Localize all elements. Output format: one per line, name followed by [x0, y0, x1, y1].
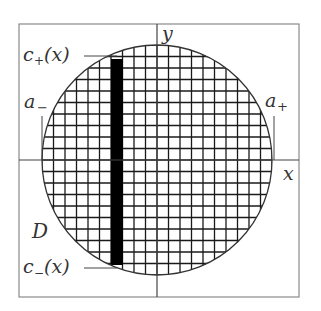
y-axis-label: y: [161, 22, 173, 44]
x-axis-label: x: [283, 162, 294, 184]
svg-text:−: −: [37, 100, 48, 115]
a-minus-label: a −: [24, 90, 48, 115]
svg-text:+: +: [277, 99, 288, 114]
c-plus-label: c + (x): [23, 43, 70, 68]
svg-text:c: c: [23, 43, 34, 65]
svg-text:+: +: [34, 54, 44, 68]
svg-text:−: −: [34, 266, 44, 280]
c-minus-label: c − (x): [23, 255, 70, 280]
svg-text:(x): (x): [44, 43, 70, 65]
svg-text:a: a: [265, 89, 276, 111]
svg-text:a: a: [24, 90, 35, 112]
a-plus-label: a +: [265, 89, 288, 114]
svg-text:c: c: [23, 255, 34, 277]
vertical-strip: [111, 59, 123, 265]
double-integral-region-diagram: y x D a − a + c + (x) c − (x): [0, 0, 321, 311]
svg-text:(x): (x): [44, 255, 70, 277]
region-label-D: D: [31, 219, 48, 243]
